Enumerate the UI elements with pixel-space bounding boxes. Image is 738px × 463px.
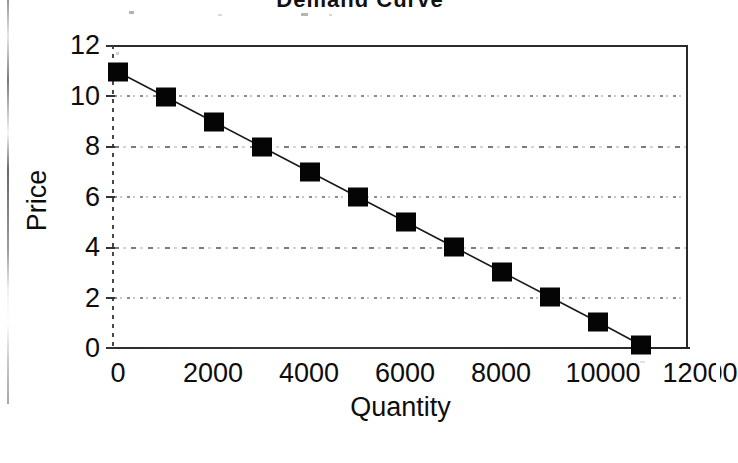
scan-speck <box>218 14 222 16</box>
x-axis-title: Quantity <box>113 392 688 423</box>
right-crop-mask <box>716 355 720 397</box>
data-point-marker <box>540 288 560 307</box>
y-tick-label-12: 12 <box>56 32 100 59</box>
y-tick-4 <box>106 247 115 249</box>
data-point-marker <box>444 238 464 257</box>
data-point-marker <box>156 88 176 107</box>
y-tick-6 <box>106 196 115 198</box>
y-tick-8 <box>106 146 115 148</box>
y-tick-0 <box>106 347 115 349</box>
plot-frame <box>113 45 688 348</box>
chart-title: Demand Curve <box>0 0 720 7</box>
x-tick-label-8000: 8000 <box>471 360 531 387</box>
x-tick-label-12000: 12000 <box>662 360 737 387</box>
y-tick-10 <box>106 95 115 97</box>
data-point-marker <box>588 313 608 332</box>
scan-speck <box>129 11 134 14</box>
data-point-marker <box>396 213 416 232</box>
scan-artifact-line <box>7 0 9 404</box>
chart-title-remnant: Demand Curve <box>0 0 720 7</box>
x-tick-label-0: 0 <box>110 360 125 387</box>
y-axis-title: Price <box>22 141 53 261</box>
data-point-marker <box>252 138 272 157</box>
x-tick-label-10000: 10000 <box>565 360 640 387</box>
scan-speck <box>301 13 308 16</box>
data-point-marker <box>348 188 368 207</box>
y-tick-2 <box>106 297 115 299</box>
data-point-marker <box>631 336 651 355</box>
y-tick-label-10: 10 <box>56 83 100 110</box>
x-axis-line <box>113 347 690 349</box>
y-tick-label-8: 8 <box>56 133 100 160</box>
y-axis-tick-labels: 12 10 8 6 4 2 0 <box>52 0 100 400</box>
x-tick-label-2000: 2000 <box>183 360 243 387</box>
x-tick-label-4000: 4000 <box>279 360 339 387</box>
data-point-marker <box>492 263 512 282</box>
data-point-marker <box>204 113 224 132</box>
y-tick-label-4: 4 <box>56 234 100 261</box>
x-tick-label-6000: 6000 <box>375 360 435 387</box>
y-tick-label-6: 6 <box>56 184 100 211</box>
data-point-marker <box>108 63 128 82</box>
x-axis-tick-labels: 0 2000 4000 6000 8000 10000 12000 <box>0 360 720 396</box>
y-tick-label-0: 0 <box>56 335 100 362</box>
scan-speck <box>329 14 332 16</box>
y-tick-12 <box>106 45 115 47</box>
data-point-marker <box>300 163 320 182</box>
y-tick-label-2: 2 <box>56 285 100 312</box>
